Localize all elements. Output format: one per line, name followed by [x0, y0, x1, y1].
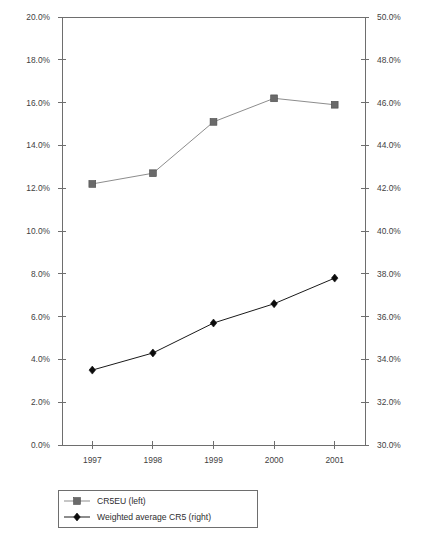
right-axis-tick-label: 48.0%	[377, 55, 401, 65]
right-axis-tick-label: 44.0%	[377, 140, 401, 150]
right-axis-tick-label: 40.0%	[377, 226, 401, 236]
data-point-marker	[89, 181, 96, 188]
x-axis-tick-label: 2001	[325, 455, 344, 465]
data-point-marker	[210, 118, 217, 125]
right-axis-tick-label: 32.0%	[377, 397, 401, 407]
left-axis-tick-label: 14.0%	[26, 140, 50, 150]
x-axis-tick-label: 1998	[144, 455, 163, 465]
left-axis-tick-labels: 0.0%2.0%4.0%6.0%8.0%10.0%12.0%14.0%16.0%…	[26, 12, 50, 450]
right-axis-tick-label: 30.0%	[377, 440, 401, 450]
right-axis-tick-label: 50.0%	[377, 12, 401, 22]
left-axis-tick-label: 20.0%	[26, 12, 50, 22]
right-axis-tick-labels: 30.0%32.0%34.0%36.0%38.0%40.0%42.0%44.0%…	[377, 12, 401, 450]
chart-legend: CR5EU (left)Weighted average CR5 (right)	[58, 490, 257, 527]
x-axis-tick-labels: 19971998199920002001	[83, 455, 344, 465]
right-axis-tick-label: 34.0%	[377, 354, 401, 364]
right-axis-tick-label: 36.0%	[377, 312, 401, 322]
chart-container: 0.0%2.0%4.0%6.0%8.0%10.0%12.0%14.0%16.0%…	[0, 0, 427, 542]
data-point-marker	[271, 300, 278, 308]
left-axis-tick-label: 6.0%	[31, 312, 51, 322]
x-axis-tick-label: 1997	[83, 455, 102, 465]
right-axis-tick-label: 42.0%	[377, 183, 401, 193]
legend-item-label: Weighted average CR5 (right)	[97, 512, 211, 522]
x-axis-tick-label: 1999	[204, 455, 223, 465]
data-point-marker	[210, 319, 217, 327]
data-point-marker	[271, 95, 278, 102]
left-axis-tick-label: 0.0%	[31, 440, 51, 450]
left-axis-tick-label: 18.0%	[26, 55, 50, 65]
right-axis-tick-label: 38.0%	[377, 269, 401, 279]
left-axis-tick-label: 10.0%	[26, 226, 50, 236]
series-line-0	[92, 98, 334, 184]
data-point-marker	[331, 101, 338, 108]
data-point-marker	[331, 274, 338, 282]
left-axis-tick-label: 12.0%	[26, 183, 50, 193]
legend-marker-square	[74, 498, 81, 505]
chart-axes	[58, 17, 369, 449]
x-axis-tick-label: 2000	[265, 455, 284, 465]
data-point-marker	[150, 349, 157, 357]
data-point-marker	[150, 170, 157, 177]
right-axis-tick-label: 46.0%	[377, 98, 401, 108]
chart-series	[89, 95, 338, 374]
data-point-marker	[89, 366, 96, 374]
legend-item-label: CR5EU (left)	[97, 496, 146, 506]
left-axis-tick-label: 2.0%	[31, 397, 51, 407]
left-axis-tick-label: 16.0%	[26, 98, 50, 108]
line-chart: 0.0%2.0%4.0%6.0%8.0%10.0%12.0%14.0%16.0%…	[0, 0, 427, 542]
left-axis-tick-label: 8.0%	[31, 269, 51, 279]
left-axis-tick-label: 4.0%	[31, 354, 51, 364]
